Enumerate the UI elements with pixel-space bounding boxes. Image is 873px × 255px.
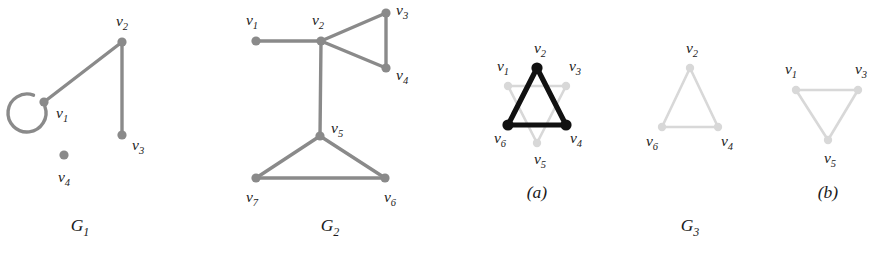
vertex-label-sub: 7 xyxy=(253,197,259,208)
vertex-label-G3b-v5: v5 xyxy=(824,149,836,169)
vertex-label-layer-G3mid: v2v4v6 xyxy=(646,39,734,152)
vertex-G1-v2[interactable] xyxy=(117,37,126,46)
edge-G2-v5-v6 xyxy=(320,136,385,178)
vertex-label-sub: 6 xyxy=(391,197,397,208)
caption-G3b: (b) xyxy=(818,182,839,202)
vertex-label-sub: 6 xyxy=(501,138,507,149)
caption-G3: G3 xyxy=(681,215,700,239)
vertex-label-G3a-v3: v3 xyxy=(569,57,581,77)
caption-G3a: (a) xyxy=(527,182,548,202)
vertex-label-G1-v3: v3 xyxy=(132,136,144,156)
vertex-G2-v2[interactable] xyxy=(316,36,325,45)
vertex-label-G2-v6: v6 xyxy=(384,188,397,208)
graph-G2: v1v2v3v4v5v6v7G2 xyxy=(246,1,409,239)
vertex-G2-v6[interactable] xyxy=(380,173,389,182)
vertex-label-sub: 3 xyxy=(575,66,581,77)
vertex-label-G2-v5: v5 xyxy=(331,119,343,139)
vertex-label-G2-v2: v2 xyxy=(312,11,325,31)
vertex-label-sub: 4 xyxy=(728,141,734,152)
vertex-G1-v4[interactable] xyxy=(59,150,68,159)
vertex-label-sub: 4 xyxy=(65,177,71,188)
vertex-label-sub: 1 xyxy=(253,20,258,31)
graph-G3mid: v2v4v6 xyxy=(646,39,734,152)
vertex-G3mid-v6[interactable] xyxy=(658,123,666,131)
vertex-label-G1-v2: v2 xyxy=(116,12,129,32)
vertex-label-G3b-v3: v3 xyxy=(855,60,867,80)
edge-layer-G3b xyxy=(796,90,858,140)
vertex-G2-v1[interactable] xyxy=(251,36,260,45)
vertex-G3b-v3[interactable] xyxy=(854,86,862,94)
edge-G2-v5-v7 xyxy=(256,136,320,178)
vertex-label-sub: 2 xyxy=(693,48,699,59)
vertex-label-sub: 4 xyxy=(403,75,409,86)
vertex-G3a-v5[interactable] xyxy=(533,139,541,147)
vertex-label-layer-G3b: v1v3v5 xyxy=(785,60,867,169)
vertex-G3a-v2[interactable] xyxy=(531,62,542,73)
vertex-label-G1-v1: v1 xyxy=(56,104,68,124)
vertex-label-sub: 3 xyxy=(402,10,408,21)
vertex-G2-v7[interactable] xyxy=(251,173,260,182)
edge-G3mid-v2-v4 xyxy=(690,68,718,127)
vertex-label-G2-v1: v1 xyxy=(246,11,258,31)
graph-G3a: v1v2v3v4v5v6(a) xyxy=(494,39,583,202)
edge-G3b-v3-v5 xyxy=(828,90,858,140)
vertex-label-G2-v4: v4 xyxy=(396,66,409,86)
edge-G2-v2-v5 xyxy=(320,41,321,136)
vertex-G2-v4[interactable] xyxy=(381,63,390,72)
vertex-label-G3a-v5: v5 xyxy=(534,150,546,170)
node-layer-G3mid xyxy=(658,64,722,131)
vertex-label-G1-v4: v4 xyxy=(58,168,71,188)
edge-layer-G3mid xyxy=(662,68,718,127)
figure-container: v1v2v3v4G1v1v2v3v4v5v6v7G2v1v2v3v4v5v6(a… xyxy=(0,0,873,255)
vertex-label-layer-G1: v1v2v3v4 xyxy=(56,12,144,188)
vertex-G2-v3[interactable] xyxy=(381,8,390,17)
vertex-G3b-v1[interactable] xyxy=(792,86,800,94)
vertex-G1-v1[interactable] xyxy=(39,97,48,106)
vertex-G3mid-v4[interactable] xyxy=(714,123,722,131)
vertex-label-sub: 5 xyxy=(831,158,836,169)
vertex-label-G3a-v4: v4 xyxy=(570,129,583,149)
graph-G1: v1v2v3v4G1 xyxy=(8,12,144,239)
vertex-label-sub: 1 xyxy=(792,69,797,80)
caption-sub: 2 xyxy=(333,225,339,239)
vertex-label-sub: 4 xyxy=(577,138,583,149)
edge-layer-G3a xyxy=(508,68,566,143)
vertex-G3b-v5[interactable] xyxy=(824,136,832,144)
vertex-G3mid-v2[interactable] xyxy=(686,64,694,72)
vertex-label-G3a-v2: v2 xyxy=(534,39,547,59)
vertex-label-sub: 2 xyxy=(123,21,129,32)
vertex-label-sub: 3 xyxy=(861,69,867,80)
vertex-G2-v5[interactable] xyxy=(315,131,324,140)
vertex-G1-v3[interactable] xyxy=(117,130,126,139)
vertex-G3a-v6[interactable] xyxy=(502,119,513,130)
graph-figure-svg: v1v2v3v4G1v1v2v3v4v5v6v7G2v1v2v3v4v5v6(a… xyxy=(0,0,873,255)
caption-G1: G1 xyxy=(71,215,90,239)
node-layer-G3b xyxy=(792,86,862,144)
vertex-label-sub: 6 xyxy=(653,141,659,152)
vertex-label-sub: 1 xyxy=(63,113,68,124)
edge-G2-v2-v4 xyxy=(321,41,386,68)
vertex-label-G3b-v1: v1 xyxy=(785,60,797,80)
edge-layer-G1 xyxy=(44,42,122,135)
vertex-label-G3mid-v6: v6 xyxy=(646,132,659,152)
vertex-label-G3a-v6: v6 xyxy=(494,129,507,149)
edge-G3mid-v6-v2 xyxy=(662,68,690,127)
vertex-label-G2-v3: v3 xyxy=(396,1,408,21)
graph-G3b: v1v3v5(b) xyxy=(785,60,867,202)
edge-G1-v1-v2 xyxy=(44,42,122,102)
caption-sub: 1 xyxy=(83,225,89,239)
edge-G2-v2-v3 xyxy=(321,13,386,41)
vertex-label-sub: 2 xyxy=(319,20,325,31)
vertex-label-sub: 2 xyxy=(541,48,547,59)
caption-G2: G2 xyxy=(321,215,340,239)
caption-sub: 3 xyxy=(692,225,699,239)
vertex-label-G3mid-v4: v4 xyxy=(721,132,734,152)
vertex-label-G3mid-v2: v2 xyxy=(686,39,699,59)
vertex-label-sub: 3 xyxy=(138,145,144,156)
vertex-label-layer-G3a: v1v2v3v4v5v6 xyxy=(494,39,583,170)
vertex-label-sub: 1 xyxy=(504,66,509,77)
vertex-label-G3a-v1: v1 xyxy=(497,57,509,77)
edge-G3b-v5-v1 xyxy=(796,90,828,140)
vertex-G3a-v1[interactable] xyxy=(504,82,512,90)
vertex-G3a-v3[interactable] xyxy=(562,82,570,90)
